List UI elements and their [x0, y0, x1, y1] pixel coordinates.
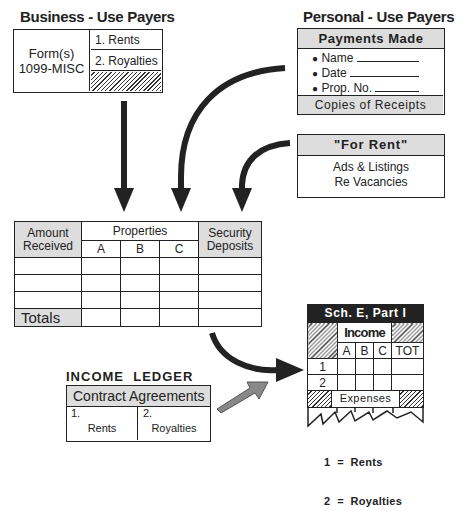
contract-item-rents: 1. Rents: [67, 407, 138, 440]
form-label: Form(s): [29, 46, 75, 61]
ads-listings: Ads & Listings: [298, 160, 444, 175]
field-name: ● Name: [312, 51, 444, 66]
ledger-row: [15, 292, 262, 309]
contract-item-royalties: 2. Royalties: [139, 407, 209, 440]
arrow-personal-to-ledger: [181, 68, 285, 190]
field-date: ● Date: [312, 66, 444, 81]
personal-payers-title: Personal - Use Payers: [303, 8, 454, 25]
schedule-legend: 1 = Rents 2 = Royalties: [307, 430, 424, 511]
sched-row-1: 1: [308, 359, 424, 375]
col-c: C: [160, 241, 199, 258]
field-prop-no: ● Prop. No.: [312, 81, 444, 96]
form-number: 1099-MISC: [19, 61, 85, 76]
ledger-row: [15, 275, 262, 292]
col-b: B: [121, 241, 160, 258]
col-properties: Properties: [82, 222, 199, 241]
income-header: Income: [338, 323, 392, 343]
payments-made-header: Payments Made: [298, 29, 444, 49]
for-rent-box: "For Rent" Ads & Listings Re Vacancies: [297, 134, 445, 198]
arrow-ledger-to-schedule: [212, 333, 278, 370]
expenses-label: Expenses: [332, 391, 399, 407]
for-rent-header: "For Rent": [298, 135, 444, 156]
form-1099-box: Form(s) 1099-MISC 1. Rents 2. Royalties: [13, 29, 163, 93]
re-vacancies: Re Vacancies: [298, 175, 444, 190]
ledger-row: [15, 258, 262, 275]
sched-row-2: 2: [308, 375, 424, 391]
income-ledger-table: AmountReceived Properties SecurityDeposi…: [14, 221, 262, 327]
form-item-rents: 1. Rents: [91, 30, 161, 50]
copies-of-receipts: Copies of Receipts: [298, 95, 443, 114]
payments-made-box: Payments Made ● Name ● Date ● Prop. No. …: [297, 28, 445, 115]
torn-edge: [307, 408, 424, 428]
col-security-deposits: SecurityDeposits: [199, 222, 262, 258]
schedule-e-header: Sch. E, Part I: [307, 304, 424, 322]
col-amount-received: AmountReceived: [15, 222, 82, 258]
ledger-totals-row: Totals: [15, 309, 262, 327]
form-item-royalties: 2. Royalties: [91, 51, 161, 71]
arrow-contract-to-schedule: [217, 382, 268, 413]
totals-label: Totals: [15, 309, 82, 327]
arrow-forrent-to-ledger: [242, 143, 290, 190]
hatched-area: [91, 72, 161, 91]
col-a: A: [82, 241, 121, 258]
business-payers-title: Business - Use Payers: [20, 8, 175, 25]
schedule-e-form: Sch. E, Part I Income A B C TOT 1 2 Expe…: [307, 304, 424, 511]
contract-agreements-box: Contract Agreements 1. Rents 2. Royaltie…: [66, 385, 211, 442]
contract-title: Contract Agreements: [67, 386, 210, 407]
